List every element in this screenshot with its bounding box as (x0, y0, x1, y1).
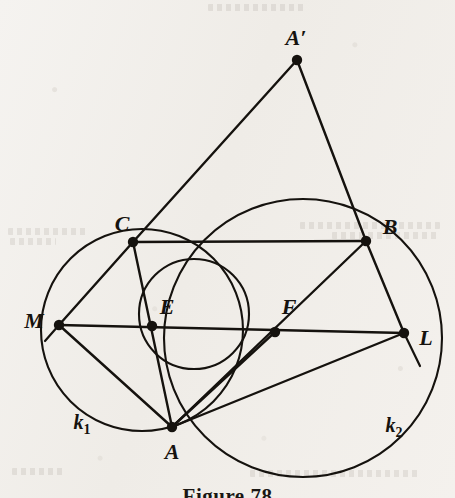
point-label-L: L (419, 325, 432, 351)
vertex-dot-M (54, 320, 64, 330)
point-label-B: B (383, 214, 398, 240)
segment-CA (133, 242, 172, 427)
vertex-dot-A (167, 422, 177, 432)
segment-CB (133, 241, 366, 242)
circle-label-sub-k2: 2 (396, 425, 403, 440)
circle-label-base-k2: k (386, 414, 396, 436)
segment-AF (172, 332, 275, 427)
vertex-dot-C (128, 237, 138, 247)
vertex-dot-L (399, 328, 409, 338)
segment-AL (172, 333, 404, 427)
circle-label-sub-k1: 1 (84, 422, 91, 437)
point-label-A: A (165, 439, 180, 465)
segment-A'B (297, 60, 366, 241)
segment-ML (59, 325, 404, 333)
vertex-dot-E (147, 321, 157, 331)
segments-layer (59, 60, 404, 427)
point-label-M: M (24, 308, 44, 334)
tangent-stub-L (404, 333, 420, 366)
circle-label-base-k1: k (74, 411, 84, 433)
point-label-F: F (282, 294, 297, 320)
circle-label-k1: k1 (74, 411, 91, 438)
point-label-E: E (160, 294, 175, 320)
vertex-dot-F (270, 327, 280, 337)
segment-BL (366, 241, 404, 333)
point-label-A-prime: A′ (286, 25, 307, 51)
vertex-dot-A-prime (292, 55, 302, 65)
point-label-C: C (115, 211, 130, 237)
circle-label-k2: k2 (386, 414, 403, 441)
vertex-dot-B (361, 236, 371, 246)
segment-A'C (133, 60, 297, 242)
segment-CM (59, 242, 133, 325)
figure-caption: Figure 78 (0, 484, 455, 498)
figure-page: A′CBMEFLAk1k2 Figure 78 (0, 0, 455, 498)
